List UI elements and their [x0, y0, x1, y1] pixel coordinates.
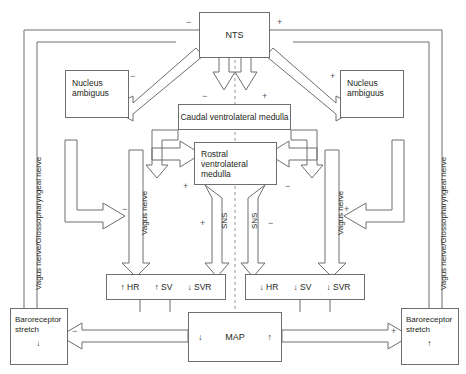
baroreceptor-right-line1: Baroreceptor [406, 315, 452, 325]
map-decrease-arrow: ↓ [198, 332, 203, 343]
node-nucleus-ambiguus-right-label: Nucleus ambiguus [347, 78, 384, 98]
sign-nts-right: + [277, 18, 282, 27]
node-baroreceptor-right: Baroreceptor stretch ↑ [401, 308, 459, 365]
node-map: ↓ MAP ↑ [188, 312, 282, 362]
node-nts-label: NTS [226, 30, 244, 41]
baroreceptor-left-line1: Baroreceptor [15, 315, 61, 325]
sign-nucleus-ambiguus-right: + [330, 72, 335, 81]
node-nucleus-ambiguus-left-label: Nucleus ambiguus [72, 78, 109, 98]
baroreceptor-right-line2: stretch [406, 325, 452, 335]
effector-left-hr: ↑ HR [121, 282, 140, 292]
effector-right-hr: ↓ HR [260, 282, 279, 292]
sign-rvlm-right: − [285, 182, 290, 191]
sign-nts-left: − [186, 18, 191, 27]
node-cvlm-label: Caudal ventrolateral medulla [180, 112, 288, 122]
node-baroreceptor-left: Baroreceptor stretch ↓ [10, 308, 68, 365]
pathway-label-afferent-right: Vagus nerve/Glossopharyngeal nerve [439, 157, 448, 290]
baroreceptor-right-arrow: ↑ [406, 339, 452, 349]
effector-left-svr: ↓ SVR [187, 282, 211, 292]
baroreceptor-reflex-diagram: NTS Nucleus ambiguus Nucleus ambiguus Ca… [0, 0, 466, 374]
pathway-label-sns-right: SNS [250, 213, 259, 229]
pathway-label-sns-left: SNS [220, 213, 229, 229]
node-caudal-ventrolateral-medulla: Caudal ventrolateral medulla [178, 104, 291, 130]
sign-nucleus-ambiguus-left: − [130, 72, 135, 81]
effector-box-left: ↑ HR ↑ SV ↓ SVR [106, 274, 226, 300]
node-nucleus-ambiguus-right: Nucleus ambiguus [340, 70, 404, 118]
baroreceptor-left-arrow: ↓ [15, 339, 61, 349]
effector-left-sv: ↑ SV [154, 282, 172, 292]
node-nts: NTS [199, 12, 270, 58]
sign-vagus-left: − [122, 205, 127, 214]
sign-vagus-right: + [344, 205, 349, 214]
node-rvlm-label: Rostral ventrolateral medulla [201, 149, 276, 179]
sign-baroreceptor-right: + [391, 327, 396, 336]
sign-cvlm-left: − [202, 92, 207, 101]
sign-sns-left: + [200, 219, 205, 228]
map-increase-arrow: ↑ [267, 332, 272, 343]
sign-baroreceptor-left: − [72, 327, 77, 336]
pathway-label-afferent-left: Vagus nerve/Glossopharyngeal nerve [34, 157, 43, 290]
effector-right-svr: ↓ SVR [326, 282, 350, 292]
node-map-label: MAP [225, 332, 245, 343]
node-rostral-ventrolateral-medulla: Rostral ventrolateral medulla [194, 142, 277, 185]
effector-right-sv: ↓ SV [293, 282, 311, 292]
node-nucleus-ambiguus-left: Nucleus ambiguus [65, 70, 129, 118]
sign-sns-right: − [268, 219, 273, 228]
sign-cvlm-right: + [262, 92, 267, 101]
baroreceptor-left-line2: stretch [15, 325, 61, 335]
effector-box-right: ↓ HR ↓ SV ↓ SVR [245, 274, 365, 300]
pathway-label-vagus-left: Vagus nerve [140, 191, 149, 235]
sign-rvlm-left: + [183, 182, 188, 191]
